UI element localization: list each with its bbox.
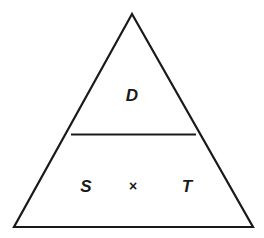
bottom-left-label-s: S	[80, 178, 91, 195]
bottom-right-label-t: T	[182, 178, 192, 195]
triangle-outline	[14, 14, 253, 227]
multiply-icon: ×	[129, 179, 137, 193]
top-label-d: D	[126, 87, 138, 104]
formula-triangle-diagram: D S × T	[0, 0, 264, 238]
triangle-shape	[0, 0, 264, 238]
